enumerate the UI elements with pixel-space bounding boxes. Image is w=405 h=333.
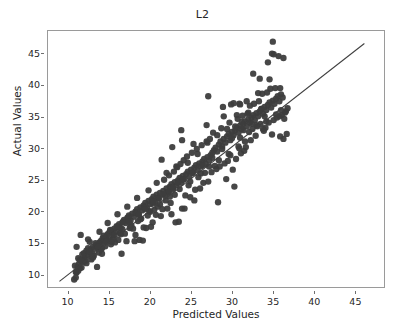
scatter-point [149,219,155,225]
scatter-point [185,160,191,166]
scatter-point [248,137,254,143]
scatter-point [191,197,197,203]
scatter-point [223,176,229,182]
x-axis-label: Predicted Values [47,308,385,320]
scatter-point [158,156,164,162]
scatter-point [204,140,210,146]
scatter-point [176,219,182,225]
scatter-point [197,185,203,191]
scatter-point [243,144,249,150]
scatter-point [214,132,220,138]
scatter-point [140,237,146,243]
scatter-point [229,135,235,141]
x-tick-mark [232,291,233,294]
scatter-point [235,143,241,149]
scatter-point [218,125,224,131]
y-tick-mark [41,243,44,244]
scatter-point [212,163,218,169]
x-tick-mark [150,291,151,294]
scatter-point [79,251,85,257]
scatter-point [252,133,258,139]
scatter-point [114,211,120,217]
scatter-point [124,204,130,210]
scatter-point [161,177,167,183]
x-tick-mark [355,291,356,294]
scatter-point [255,90,261,96]
scatter-point [279,94,285,100]
scatter-point [232,123,238,129]
scatter-point [269,131,275,137]
x-tick-mark [273,291,274,294]
scatter-point [175,180,181,186]
scatter-point [230,100,236,106]
x-tick-mark [314,291,315,294]
scatter-point [216,157,222,163]
y-axis-label: Actual Values [11,56,23,186]
scatter-point [245,109,251,115]
scatter-point [179,137,185,143]
scatter-point [126,219,132,225]
scatter-point [103,239,109,245]
x-tick-label: 20 [135,296,165,307]
scatter-point [230,166,236,172]
y-tick-mark [41,117,44,118]
scatter-point [107,227,113,233]
x-tick-label: 30 [217,296,247,307]
scatter-point [265,59,271,65]
scatter-point [240,127,246,133]
y-tick-mark [41,211,44,212]
scatter-point [73,244,79,250]
scatter-point [257,76,263,82]
scatter-point [256,98,262,104]
scatter-point [150,198,156,204]
y-tick-label: 20 [16,205,40,216]
scatter-point [136,212,142,218]
scatter-point [168,211,174,217]
x-tick-mark [68,291,69,294]
y-tick-mark [41,85,44,86]
scatter-point [85,236,91,242]
scatter-point [277,133,283,139]
scatter-point [78,232,84,238]
y-tick-mark [41,148,44,149]
scatter-point [158,213,164,219]
scatter-point [178,127,184,133]
scatter-point [269,50,275,56]
scatter-point [226,119,232,125]
x-tick-mark [109,291,110,294]
scatter-point [169,144,175,150]
scatter-canvas [48,31,384,287]
scatter-point [170,185,176,191]
scatter-point [234,112,240,118]
scatter-point [132,232,138,238]
scatter-point [181,205,187,211]
scatter-point [113,223,119,229]
data-layer [48,31,384,287]
scatter-point [221,113,227,119]
scatter-point [220,104,226,110]
y-tick-mark [41,53,44,54]
y-tick-mark [41,275,44,276]
x-tick-label: 40 [299,296,329,307]
scatter-point [237,101,243,107]
scatter-point [134,195,140,201]
scatter-point [250,70,256,76]
y-tick-mark [41,180,44,181]
scatter-point [119,226,125,232]
scatter-point [120,219,126,225]
scatter-point [239,119,245,125]
scatter-point [258,106,264,112]
scatter-point [173,163,179,169]
scatter-point [203,122,209,128]
scatter-point [224,126,230,132]
scatter-point [142,206,148,212]
x-tick-label: 25 [176,296,206,307]
scatter-point [284,105,290,111]
scatter-point [225,158,231,164]
scatter-point [94,264,100,270]
y-tick-label: 15 [16,237,40,248]
scatter-point [233,156,239,162]
scatter-point [215,199,221,205]
scatter-point [123,238,129,244]
x-axis-tick-labels: 1015202530354045 [47,292,385,308]
